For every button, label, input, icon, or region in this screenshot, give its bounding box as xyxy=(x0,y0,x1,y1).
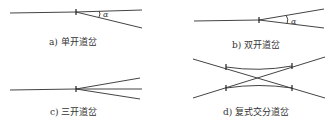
lower-diverging-track xyxy=(76,89,140,99)
upper-slip-curve xyxy=(226,66,292,69)
upper-diverging-track xyxy=(76,78,140,89)
panel-b-double-turnout: α xyxy=(194,9,324,28)
lower-slip-curve xyxy=(226,86,292,89)
caption-a: a) 单开道岔 xyxy=(49,37,97,48)
angle-alpha-label: α xyxy=(103,10,109,19)
main-track-straight xyxy=(76,10,142,12)
caption-d: d) 复式交分道岔 xyxy=(223,107,289,118)
main-track-left xyxy=(10,89,76,90)
caption-c: c) 三开道岔 xyxy=(50,107,97,118)
angle-arc xyxy=(286,15,288,24)
diverging-track xyxy=(76,12,142,28)
panel-c-three-way-turnout xyxy=(10,78,142,99)
angle-alpha-label: α xyxy=(291,17,297,26)
angle-arc xyxy=(99,11,100,17)
panel-a-single-turnout: α xyxy=(10,9,142,28)
main-track-left xyxy=(10,12,76,13)
caption-b: b) 双开道岔 xyxy=(232,40,280,51)
main-track-left xyxy=(194,20,259,21)
panel-d-double-slip-switch xyxy=(193,57,325,98)
